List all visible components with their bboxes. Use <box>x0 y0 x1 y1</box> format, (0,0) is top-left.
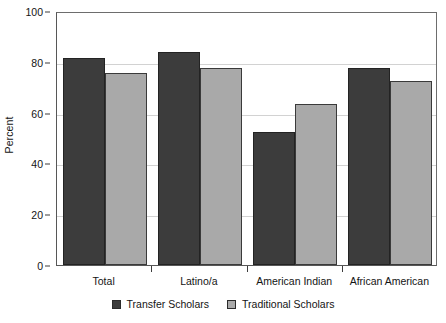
x-tick-mark <box>151 266 152 272</box>
x-tick-label: American Indian <box>256 275 332 287</box>
y-tick-mark <box>45 266 50 267</box>
y-axis-title: Percent <box>0 0 18 270</box>
y-tick-mark <box>45 62 50 63</box>
bar-traditional-scholars-african-american <box>390 81 432 265</box>
y-tick-mark <box>45 215 50 216</box>
legend-label: Transfer Scholars <box>127 298 209 310</box>
bar-traditional-scholars-latino-a <box>200 68 242 265</box>
light-square-swatch <box>227 300 236 309</box>
y-axis-title-text: Percent <box>3 117 15 154</box>
y-tick-label: 100 <box>25 6 43 18</box>
y-tick-label: 0 <box>37 260 43 272</box>
bars-layer <box>57 13 436 265</box>
bar-transfer-scholars-total <box>63 58 105 265</box>
bar-traditional-scholars-american-indian <box>295 104 337 265</box>
bar-transfer-scholars-latino-a <box>158 52 200 265</box>
dark-square-swatch <box>112 300 121 309</box>
x-tick-mark <box>247 266 248 272</box>
legend-label: Traditional Scholars <box>242 298 334 310</box>
y-tick-label: 40 <box>31 158 43 170</box>
bar-transfer-scholars-american-indian <box>253 132 295 265</box>
bar-transfer-scholars-african-american <box>348 68 390 265</box>
y-tick-mark <box>45 113 50 114</box>
x-tick-label: Total <box>93 275 115 287</box>
plot-area <box>56 12 437 266</box>
bar-chart: Percent 020406080100 TotalLatino/aAmeric… <box>0 0 446 323</box>
x-axis: TotalLatino/aAmerican IndianAfrican Amer… <box>56 266 437 296</box>
y-axis-ticks: 020406080100 <box>18 0 50 280</box>
x-tick-label: African American <box>350 275 429 287</box>
y-tick-label: 60 <box>31 108 43 120</box>
x-tick-mark <box>342 266 343 272</box>
legend-item[interactable]: Transfer Scholars <box>112 298 209 310</box>
y-tick-label: 20 <box>31 209 43 221</box>
bar-traditional-scholars-total <box>105 73 147 265</box>
x-tick-label: Latino/a <box>180 275 217 287</box>
y-tick-mark <box>45 12 50 13</box>
legend-item[interactable]: Traditional Scholars <box>227 298 334 310</box>
y-tick-label: 80 <box>31 57 43 69</box>
y-tick-mark <box>45 164 50 165</box>
chart-legend: Transfer ScholarsTraditional Scholars <box>0 298 446 310</box>
